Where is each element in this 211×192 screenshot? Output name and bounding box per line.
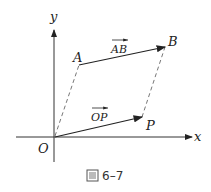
vector-parallelogram-diagram: y x O A B P AB OP 6–7 (0, 0, 211, 192)
x-axis-label: x (194, 129, 202, 144)
y-axis-label: y (49, 9, 58, 24)
point-A-label: A (72, 50, 82, 65)
point-B-label: B (167, 34, 178, 49)
figure-caption: 6–7 (102, 169, 123, 183)
dashed-PB (142, 47, 165, 117)
figure-glyph-icon-inner (89, 172, 96, 179)
origin-label: O (38, 141, 49, 156)
vector-AB-label: AB (110, 43, 127, 56)
point-P-label: P (145, 118, 155, 133)
dashed-OA (55, 65, 79, 136)
vector-OP-label: OP (91, 111, 108, 124)
